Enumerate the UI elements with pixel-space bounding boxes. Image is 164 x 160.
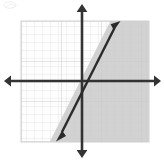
coordinate-plane-graph — [0, 0, 164, 160]
x-axis-left-arrow-icon — [4, 76, 11, 87]
graph-figure — [0, 0, 164, 160]
y-axis-up-arrow-icon — [77, 4, 88, 12]
y-axis-down-arrow-icon — [77, 150, 88, 158]
x-axis-right-arrow-icon — [154, 76, 161, 87]
scan-smudge — [4, 2, 16, 8]
